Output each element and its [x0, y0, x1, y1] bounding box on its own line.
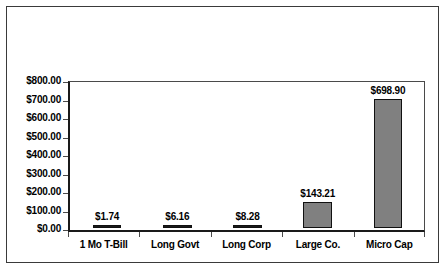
- bar-series: $1.74$6.16$8.28$143.21$698.90: [72, 83, 423, 228]
- y-axis-tick-label: $700.00: [26, 94, 61, 105]
- y-axis-tick-label: $800.00: [26, 75, 61, 86]
- bar[interactable]: [93, 225, 122, 229]
- bar[interactable]: [163, 225, 192, 229]
- y-axis: $800.00$700.00$600.00$500.00$400.00$300.…: [7, 81, 68, 232]
- x-axis-ticks: [68, 232, 425, 237]
- x-axis-category-label: Long Govt: [139, 239, 210, 250]
- bar-group: $1.74: [72, 83, 142, 228]
- bar-group: $698.90: [353, 83, 423, 228]
- x-axis-category-label: Micro Cap: [354, 239, 425, 250]
- chart-frame: $800.00$700.00$600.00$500.00$400.00$300.…: [6, 6, 439, 263]
- bar[interactable]: [303, 202, 332, 228]
- x-axis-tick-mark: [282, 232, 283, 237]
- y-axis-tick-label: $100.00: [26, 205, 61, 216]
- x-axis-tick-mark: [68, 232, 69, 237]
- x-axis-tick-mark: [424, 232, 425, 237]
- bar-group: $8.28: [212, 83, 282, 228]
- y-axis-tick-label: $0.00: [37, 223, 61, 234]
- x-axis-tick-mark: [354, 232, 355, 237]
- bar-value-label: $698.90: [371, 85, 406, 96]
- x-axis-category-label: Long Corp: [211, 239, 282, 250]
- bar[interactable]: [233, 225, 262, 229]
- bar[interactable]: [374, 99, 403, 228]
- x-axis-tick-mark: [139, 232, 140, 237]
- x-axis-category-labels: 1 Mo T-BillLong GovtLong CorpLarge Co.Mi…: [68, 239, 425, 250]
- x-axis-category-label: 1 Mo T-Bill: [68, 239, 139, 250]
- bar-value-label: $6.16: [165, 211, 189, 222]
- y-axis-tick-label: $600.00: [26, 112, 61, 123]
- bar-value-label: $1.74: [95, 211, 119, 222]
- plot-area: $1.74$6.16$8.28$143.21$698.90: [68, 81, 425, 232]
- y-axis-tick-label: $500.00: [26, 131, 61, 142]
- bar-value-label: $8.28: [235, 211, 259, 222]
- y-axis-tick-label: $400.00: [26, 149, 61, 160]
- bar-group: $143.21: [283, 83, 353, 228]
- x-axis-tick-mark: [211, 232, 212, 237]
- bar-value-label: $143.21: [300, 188, 335, 199]
- y-axis-tick-label: $200.00: [26, 186, 61, 197]
- bar-group: $6.16: [142, 83, 212, 228]
- x-axis-category-label: Large Co.: [282, 239, 353, 250]
- y-axis-tick-label: $300.00: [26, 168, 61, 179]
